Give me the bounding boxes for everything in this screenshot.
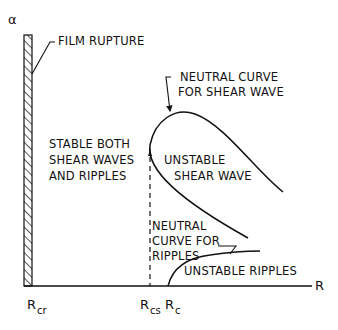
neutral-shear-label-line1: NEUTRAL CURVE: [180, 70, 278, 85]
unstable-ripples-label: UNSTABLE RIPPLES: [184, 264, 297, 279]
shear-neutral-leader: [166, 77, 171, 111]
tick-rcr: Rcr: [27, 297, 47, 312]
neutral-ripples-label-line3: RIPPLES: [152, 249, 200, 264]
stable-label-line2: SHEAR WAVES: [49, 153, 134, 168]
tick-rc: Rc: [165, 297, 181, 312]
film-rupture-leader: [32, 42, 55, 74]
neutral-ripples-label-line2: CURVE FOR: [152, 234, 220, 249]
x-axis-label: R: [315, 278, 324, 293]
unstable-shear-label-line2: SHEAR WAVE: [174, 169, 252, 184]
unstable-shear-label-line1: UNSTABLE: [164, 153, 225, 168]
y-axis-label: α: [8, 12, 17, 27]
film-rupture-bar: [24, 35, 32, 286]
stability-diagram: α R Rcr Rcs Rc FILM RUPTURE NEUTRAL CURV…: [0, 0, 338, 330]
neutral-shear-label-line2: FOR SHEAR WAVE: [178, 85, 284, 100]
film-rupture-label: FILM RUPTURE: [58, 34, 144, 49]
neutral-ripples-label-line1: NEUTRAL: [152, 219, 207, 234]
tick-rcs: Rcs: [140, 297, 161, 312]
stable-label-line3: AND RIPPLES: [49, 169, 126, 184]
stable-label-line1: STABLE BOTH: [49, 137, 130, 152]
shear-curve-arrow: [148, 150, 152, 156]
